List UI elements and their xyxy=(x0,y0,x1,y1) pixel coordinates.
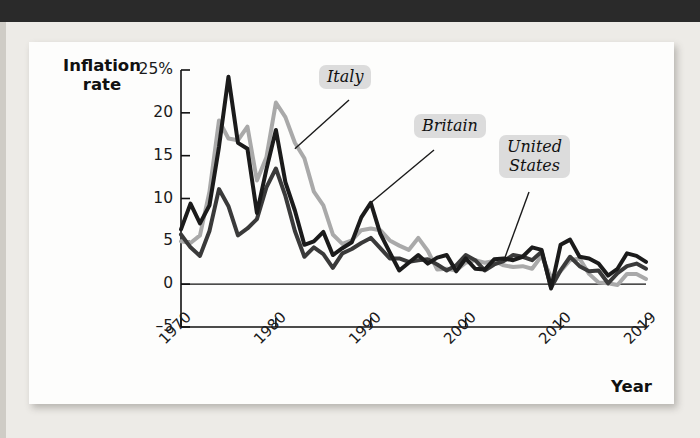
y-tick-label: 15 xyxy=(103,146,173,164)
page-edge-top xyxy=(0,0,700,22)
y-tick-label: 20 xyxy=(103,103,173,121)
series-line xyxy=(181,169,646,288)
y-tick-label: 0 xyxy=(103,274,173,292)
book-page-scan: consumption and unemployment never rose … xyxy=(0,0,700,438)
page-edge-left xyxy=(0,22,6,438)
y-tick-label: 25% xyxy=(103,60,173,78)
series-label-italy: Italy xyxy=(319,65,371,89)
series-label-britain: Britain xyxy=(414,114,486,138)
y-tick-label: 10 xyxy=(103,189,173,207)
annotation-leader-line xyxy=(371,150,434,203)
chart-card: Inflationrate Year 25%20151050–519701980… xyxy=(29,42,674,404)
line-chart-svg xyxy=(29,42,674,404)
series-label-united-states: United States xyxy=(499,135,570,178)
annotation-leader-line xyxy=(295,100,349,149)
plot-area: 25%20151050–5197019801990200020102019Ita… xyxy=(29,42,674,404)
y-tick-label: 5 xyxy=(103,231,173,249)
annotation-leader-line xyxy=(504,192,529,261)
series-line xyxy=(181,77,646,289)
